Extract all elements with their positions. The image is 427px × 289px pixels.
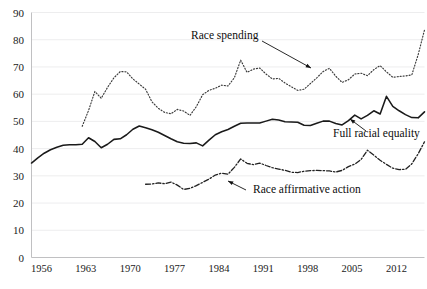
- x-tick-label-1956: 1956: [31, 263, 52, 274]
- y-tick-label-60: 60: [13, 88, 25, 100]
- gridlines: [32, 13, 425, 231]
- y-tick-label-10: 10: [13, 224, 25, 236]
- y-tick-label-0: 0: [19, 252, 25, 264]
- chart-figure: 9080706050403020100 19561963197019771984…: [0, 0, 427, 289]
- x-tick-label-2005: 2005: [342, 263, 363, 274]
- annotation-arrowhead-race-spending: [305, 64, 311, 68]
- x-tick-label-1970: 1970: [120, 263, 141, 274]
- x-tick-label-1998: 1998: [297, 263, 318, 274]
- annotation-label-race-spending: Race spending: [191, 29, 259, 42]
- annotation-arrowhead-race-affirmative-action: [228, 181, 234, 185]
- data-series: [32, 30, 425, 190]
- y-tick-label-80: 80: [13, 34, 25, 46]
- x-axis-tick-labels: 195619631970197719841991199820052012: [31, 263, 407, 274]
- x-tick-label-1984: 1984: [208, 263, 230, 274]
- y-axis-tick-labels: 9080706050403020100: [13, 7, 25, 264]
- x-tick-label-2012: 2012: [386, 263, 407, 274]
- y-tick-label-90: 90: [13, 7, 25, 19]
- y-tick-label-50: 50: [13, 115, 25, 127]
- y-tick-label-30: 30: [13, 170, 25, 182]
- annotations: Race spendingFull racial equalityRace af…: [191, 29, 420, 195]
- y-tick-label-70: 70: [13, 61, 25, 73]
- chart-canvas: 9080706050403020100 19561963197019771984…: [0, 0, 427, 289]
- annotation-label-full-racial-equality: Full racial equality: [333, 127, 420, 140]
- x-tick-label-1963: 1963: [75, 263, 96, 274]
- annotation-label-race-affirmative-action: Race affirmative action: [253, 183, 361, 195]
- y-tick-label-20: 20: [13, 197, 25, 209]
- y-tick-label-40: 40: [13, 143, 25, 155]
- x-tick-label-1977: 1977: [164, 263, 185, 274]
- x-tick-label-1991: 1991: [253, 263, 274, 274]
- annotation-arrow-race-spending: [262, 41, 311, 68]
